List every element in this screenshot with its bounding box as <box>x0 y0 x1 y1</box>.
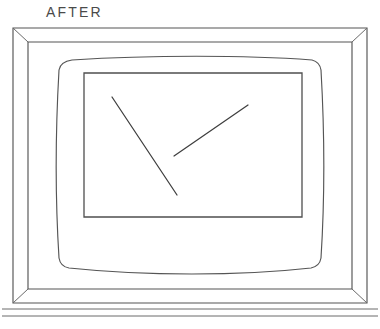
bevel-top-right-icon <box>352 28 367 42</box>
cabinet-outer-outline <box>13 28 367 303</box>
bevel-top-left-icon <box>13 28 28 42</box>
cabinet-inner-outline <box>28 42 352 289</box>
bevel-bottom-left-icon <box>13 289 28 303</box>
screen-area <box>84 73 302 217</box>
crt-line-drawing <box>0 0 380 329</box>
picture-tube-bezel <box>56 56 324 274</box>
mark-ascending-stroke <box>174 105 248 156</box>
bevel-bottom-right-icon <box>352 289 367 303</box>
figure-root: AFTER <box>0 0 380 329</box>
mark-descending-stroke <box>112 97 177 195</box>
